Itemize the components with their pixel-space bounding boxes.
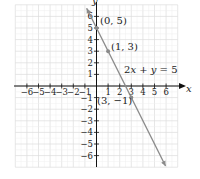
- y-tick-label: 5: [88, 23, 93, 33]
- y-tick-label: −6: [80, 151, 93, 161]
- y-tick-label: −1: [80, 93, 93, 103]
- x-tick-label: 4: [140, 87, 145, 97]
- x-tick-label: 5: [152, 87, 157, 97]
- y-tick-label: −4: [80, 127, 93, 137]
- x-tick-label: 6: [163, 87, 168, 97]
- point-label-0-5: (0, 5): [100, 15, 127, 26]
- y-tick-label: 4: [88, 35, 93, 45]
- equation-label: 2x + y = 5: [124, 64, 178, 75]
- data-point: [106, 49, 110, 53]
- y-tick-label: 1: [88, 69, 93, 79]
- y-tick-label: −3: [80, 116, 93, 126]
- coordinate-plane: −6−5−4−3−2−1123456−6−5−4−3−2123456−1 x y…: [0, 0, 200, 179]
- y-tick-label: −2: [80, 104, 93, 114]
- y-tick-label: −5: [80, 139, 93, 149]
- y-tick-label: 3: [88, 46, 93, 56]
- x-axis-arrow-icon: [179, 83, 186, 89]
- y-axis-label: y: [91, 0, 98, 6]
- y-tick-label: 2: [88, 58, 93, 68]
- x-axis-label: x: [186, 83, 192, 94]
- point-label-1-3: (1, 3): [111, 41, 138, 52]
- point-label-3-neg1: (3, −1): [97, 95, 132, 106]
- data-point: [95, 26, 99, 30]
